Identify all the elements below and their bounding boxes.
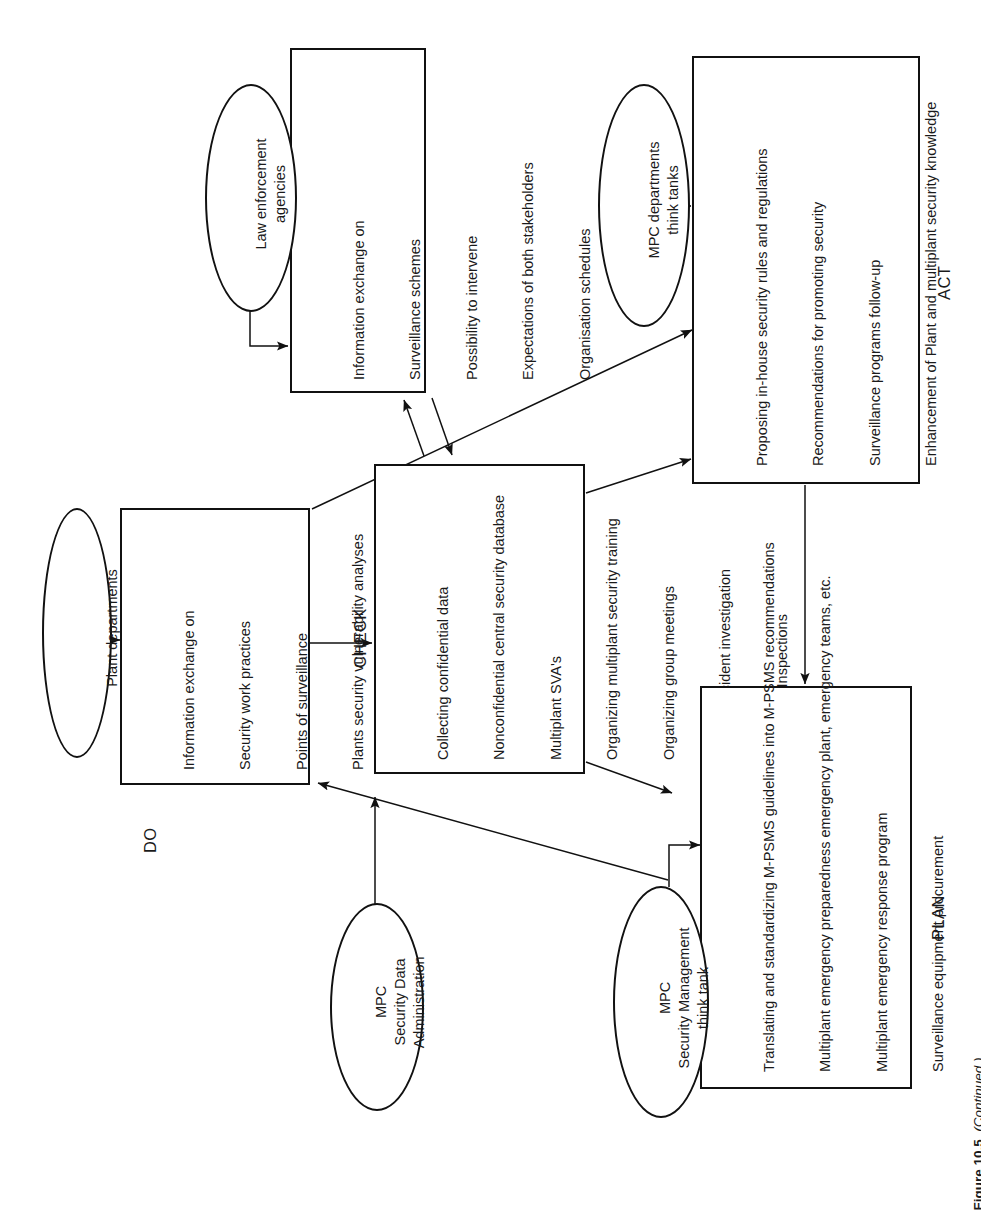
actor-label-line: Security Management xyxy=(676,927,692,1068)
actor-mpc-departments-think-tanks-label: MPC departments think tanks xyxy=(626,98,683,310)
actor-label-line: MPC xyxy=(657,982,673,1014)
phase-label-act: ACT xyxy=(934,266,955,300)
arrow-info-exchange-to-check xyxy=(404,400,424,456)
plan-item-0: Translating and standardizing M-PSMS gui… xyxy=(760,700,779,1072)
phase-label-do: DO xyxy=(140,827,161,853)
arrow-law-enforcement-to-info-exchange xyxy=(250,311,288,346)
actor-label-line: agencies xyxy=(272,165,288,223)
actor-plant-departments-label: Plant departments xyxy=(84,524,122,740)
actor-mpc-security-management-think-tank-label: MPC Security Management think tank xyxy=(637,902,714,1102)
check-item-1: Nonconfidential central security databas… xyxy=(490,474,509,760)
arrow-check-to-plan xyxy=(586,762,672,793)
info-exchange-item-2: Expectations of both stakeholders xyxy=(519,55,538,380)
info-exchange-item-3: Organisation schedules xyxy=(576,55,595,380)
arrow-security-mgmt-think-tank-to-plan xyxy=(669,845,700,887)
plan-item-2: Multiplant emergency response program xyxy=(873,700,892,1072)
info-exchange-item-1: Possibility to intervene xyxy=(463,55,482,380)
info-exchange-item-0: Surveillance schemes xyxy=(406,55,425,380)
act-item-1: Recommendations for promoting security xyxy=(809,71,828,466)
phase-label-plan: PLAN xyxy=(928,895,949,940)
do-heading: Information exchange on xyxy=(180,520,199,770)
information-exchange-external-text: Information exchange on Surveillance sch… xyxy=(312,55,614,380)
check-item-0: Collecting confidential data xyxy=(434,474,453,760)
phase-label-check: CHECK xyxy=(350,608,371,668)
plan-item-1: Multiplant emergency preparedness emerge… xyxy=(816,700,835,1072)
actor-law-enforcement-agencies-label: Law enforcement agencies xyxy=(233,100,290,296)
info-exchange-heading: Information exchange on xyxy=(350,55,369,380)
actor-label-line: Plant departments xyxy=(104,569,120,687)
check-item-4: Organizing group meetings xyxy=(660,474,679,760)
plan-item-3: Surveillance equipment procurement xyxy=(929,700,948,1072)
actor-label-line: MPC departments xyxy=(646,142,662,259)
check-item-3: Organizing multiplant security training xyxy=(603,474,622,760)
act-item-0: Proposing in-house security rules and re… xyxy=(753,71,772,466)
actor-label-line: think tanks xyxy=(665,165,681,234)
arrow-plan-to-do xyxy=(318,783,668,880)
actor-label-line: think tank xyxy=(695,967,711,1029)
plan-box-text: Translating and standardizing M-PSMS gui… xyxy=(722,700,981,1072)
actor-label-line: Law enforcement xyxy=(253,138,269,249)
figure-caption: Figure 10.5 (Continued.) xyxy=(952,1057,981,1218)
figure-caption-text: (Continued.) xyxy=(971,1057,981,1131)
actor-mpc-security-data-administration-label: MPC Security Data Administration xyxy=(353,918,430,1094)
do-item-1: Points of surveillance xyxy=(293,520,312,770)
actor-label-line: MPC xyxy=(373,986,389,1018)
arrow-check-to-info-exchange xyxy=(432,398,452,455)
figure-caption-label: Figure 10.5 xyxy=(971,1139,981,1210)
do-item-0: Security work practices xyxy=(236,520,255,770)
act-item-2: Surveillance programs follow-up xyxy=(866,71,885,466)
actor-label-line: Security Data xyxy=(392,958,408,1045)
actor-label-line: Administration xyxy=(411,956,427,1048)
check-item-2: Multiplant SVA's xyxy=(547,474,566,760)
